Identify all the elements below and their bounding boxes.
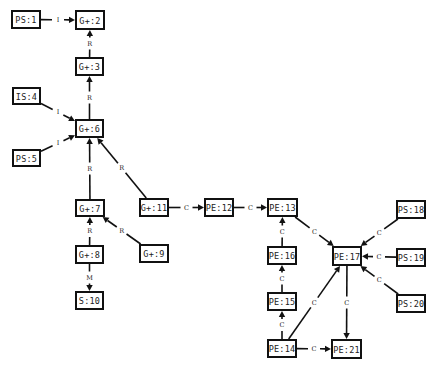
arrowhead-icon <box>86 76 92 82</box>
arrowhead-icon <box>87 217 93 223</box>
node-is-4: IS:4 <box>13 88 40 104</box>
node-label: PE:14 <box>269 344 296 354</box>
node-label: S:10 <box>79 296 100 306</box>
edge-g-8-to-g-7: R <box>87 217 94 245</box>
node-g-6: G+:6 <box>76 120 103 137</box>
dependency-graph: IRRIIRRRRMCCCCCCCCCCCC PS:1G+:2G+:3IS:4P… <box>0 0 433 369</box>
node-ps-18: PS:18 <box>397 201 425 218</box>
node-label: G+:3 <box>79 62 100 72</box>
edge-ps-5-to-g-6: I <box>41 135 75 151</box>
edge-line <box>101 143 118 164</box>
edge-line <box>41 103 53 109</box>
edge-g-11-to-pe-12: C <box>169 204 204 212</box>
edge-g-7-to-g-6: R <box>86 138 93 199</box>
node-label: G+:9 <box>143 249 164 259</box>
arrowhead-icon <box>279 265 285 271</box>
edge-ps-1-to-g-2: I <box>41 16 75 24</box>
edge-g-8-to-s-10: M <box>86 264 93 291</box>
edge-ps-19-to-pe-17: C <box>362 253 396 261</box>
node-ps-5: PS:5 <box>13 150 40 166</box>
node-label: IS:4 <box>16 92 37 102</box>
arrowhead-icon <box>87 30 93 36</box>
node-label: PE:21 <box>333 345 360 355</box>
arrowhead-icon <box>325 346 331 352</box>
edge-line <box>295 217 309 228</box>
edge-label: C <box>248 204 253 212</box>
node-ps-20: PS:20 <box>397 295 425 312</box>
node-pe-14: PE:14 <box>268 340 296 357</box>
edge-line <box>127 234 141 244</box>
node-label: G+:6 <box>79 124 100 134</box>
node-g-2: G+:2 <box>76 11 104 29</box>
edge-label: R <box>87 40 93 48</box>
edge-g-3-to-g-2: R <box>87 30 94 57</box>
edge-label: C <box>377 253 382 261</box>
arrowhead-icon <box>103 217 110 223</box>
node-label: PE:12 <box>206 203 233 213</box>
node-label: PS:19 <box>398 253 425 263</box>
edge-ps-20-to-pe-17: C <box>360 266 398 294</box>
edge-line <box>41 146 53 151</box>
edge-label: R <box>119 164 125 172</box>
edge-line <box>366 236 375 242</box>
edge-line <box>384 219 398 229</box>
node-pe-21: PE:21 <box>332 340 361 358</box>
edge-line <box>318 271 337 298</box>
edge-g-11-to-g-6: R <box>97 138 146 198</box>
node-label: G+:11 <box>141 203 168 213</box>
node-label: PS:5 <box>16 154 37 164</box>
edge-label: M <box>86 274 93 282</box>
node-label: G+:8 <box>79 250 100 260</box>
arrowhead-icon <box>279 217 285 223</box>
node-label: PE:13 <box>269 203 296 213</box>
edge-pe-12-to-pe-13: C <box>234 204 267 212</box>
edge-pe-14-to-pe-15: C <box>279 311 285 339</box>
arrowhead-icon <box>69 17 75 23</box>
node-s-10: S:10 <box>76 292 103 309</box>
edge-pe-16-to-pe-13: C <box>279 217 285 246</box>
edge-label: C <box>280 275 285 283</box>
node-g-8: G+:8 <box>76 246 103 263</box>
edge-label: I <box>57 139 60 147</box>
node-g-7: G+:7 <box>76 200 104 216</box>
edge-label: R <box>119 227 125 235</box>
edge-is-4-to-g-6: I <box>41 103 75 121</box>
edge-line <box>63 138 69 141</box>
node-pe-15: PE:15 <box>268 293 296 310</box>
edge-g-6-to-g-3: R <box>86 76 93 119</box>
edge-label: I <box>57 108 60 116</box>
edge-g-9-to-g-7: R <box>103 217 141 244</box>
node-pe-17: PE:17 <box>333 247 361 265</box>
edge-label: R <box>87 165 93 173</box>
nodes-layer: PS:1G+:2G+:3IS:4PS:5G+:6G+:7G+:8G+:9S:10… <box>12 11 425 358</box>
edge-label: C <box>312 228 317 236</box>
node-ps-1: PS:1 <box>12 11 40 28</box>
node-ps-19: PS:19 <box>397 249 425 266</box>
edge-label: R <box>87 94 93 102</box>
arrowhead-icon <box>361 240 368 246</box>
edge-label: I <box>57 16 60 24</box>
edge-line <box>126 173 147 198</box>
node-pe-13: PE:13 <box>268 199 297 216</box>
node-pe-12: PE:12 <box>205 199 233 216</box>
node-label: PE:17 <box>334 252 361 262</box>
edge-pe-13-to-pe-17: C <box>295 217 334 246</box>
edge-label: C <box>312 345 317 353</box>
node-label: G+:7 <box>79 204 100 214</box>
node-label: PS:1 <box>15 15 36 25</box>
edge-label: C <box>280 321 285 329</box>
edge-label: C <box>377 229 382 237</box>
arrowhead-icon <box>343 333 349 339</box>
node-label: PE:16 <box>269 251 296 261</box>
edge-line <box>108 220 117 227</box>
node-label: G+:2 <box>79 16 100 26</box>
edge-line <box>289 307 311 339</box>
edge-pe-17-to-pe-21: C <box>343 266 349 339</box>
arrowhead-icon <box>86 285 92 291</box>
edge-label: C <box>344 299 349 307</box>
arrowhead-icon <box>334 266 340 273</box>
edge-pe-14-to-pe-21: C <box>297 345 331 353</box>
edge-pe-15-to-pe-16: C <box>279 265 285 292</box>
node-label: PS:20 <box>398 299 425 309</box>
node-g-9: G+:9 <box>140 245 168 262</box>
